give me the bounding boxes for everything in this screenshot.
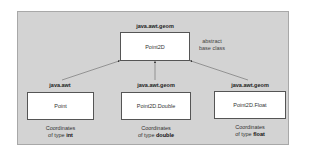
- float-note-line1: Coordinates: [214, 124, 286, 131]
- annotation-line1: abstract: [192, 38, 232, 45]
- point-class-box: Point: [27, 92, 94, 120]
- point2d-float-class-box: Point2D.Float: [214, 91, 286, 119]
- point2d-class-box: Point2D: [120, 32, 190, 61]
- float-note-type: float: [253, 131, 265, 137]
- double-note-prefix: of type: [138, 132, 156, 138]
- annotation-line2: base class: [192, 45, 232, 52]
- abstract-annotation: abstract base class: [192, 38, 232, 52]
- double-package-label: java.awt.geom: [121, 82, 191, 88]
- point-package-label: java.awt: [27, 82, 93, 88]
- double-note-line1: Coordinates: [121, 125, 191, 132]
- double-note: Coordinates of type double: [121, 125, 191, 139]
- point2d-class-name: Point2D: [145, 44, 165, 50]
- base-package-label: java.awt.geom: [120, 23, 190, 29]
- float-note: Coordinates of type float: [214, 124, 286, 138]
- point-class-name: Point: [54, 103, 67, 109]
- point-note-type: int: [66, 132, 73, 138]
- point2d-float-class-name: Point2D.Float: [233, 102, 266, 108]
- float-note-prefix: of type: [235, 131, 253, 137]
- double-note-type: double: [156, 132, 174, 138]
- point2d-double-class-box: Point2D.Double: [121, 92, 191, 120]
- point-note: Coordinates of type int: [27, 125, 94, 139]
- point2d-double-class-name: Point2D.Double: [137, 103, 176, 109]
- point-note-line1: Coordinates: [27, 125, 94, 132]
- float-package-label: java.awt.geom: [214, 82, 286, 88]
- point-note-prefix: of type: [48, 132, 66, 138]
